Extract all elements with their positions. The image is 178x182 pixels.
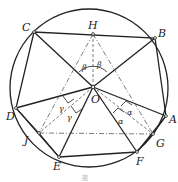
geometry-diagram: β β γ γ α α A B C D E F G H J O 图	[0, 0, 178, 182]
point-label-A: A	[168, 113, 177, 126]
diagram-canvas: β β γ γ α α A B C D E F G H J O 图	[0, 0, 178, 182]
segment-G-A	[153, 116, 166, 134]
segment-F-G	[137, 134, 153, 152]
angle-label-gamma-lower: γ	[67, 113, 72, 122]
angle-label-alpha-upper: α	[127, 108, 133, 117]
point-label-H: H	[87, 19, 98, 32]
segment-J-E	[39, 133, 59, 157]
angle-label-beta-left: β	[81, 63, 87, 72]
point-label-G: G	[156, 137, 165, 150]
point-label-D: D	[5, 110, 15, 123]
point-label-J: J	[22, 134, 29, 147]
figure-caption: 图	[82, 174, 88, 182]
point-label-E: E	[52, 160, 61, 173]
angle-label-gamma-upper: γ	[59, 104, 64, 113]
segment-D-J	[16, 108, 39, 133]
angle-label-alpha-lower: α	[118, 117, 124, 126]
point-label-B: B	[157, 27, 166, 40]
point-label-F: F	[135, 155, 144, 168]
angle-label-beta-right: β	[96, 60, 102, 69]
point-label-O: O	[91, 93, 100, 106]
point-label-C: C	[22, 21, 31, 34]
